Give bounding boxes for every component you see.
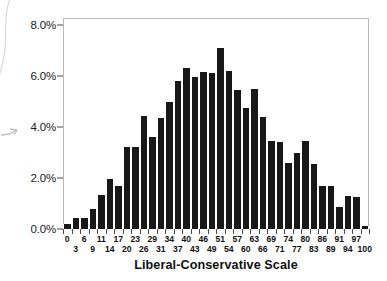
bar xyxy=(344,196,353,229)
x-axis-tick-mark xyxy=(123,229,124,234)
x-axis-tick-label: 60 xyxy=(241,244,251,254)
bar xyxy=(191,77,200,229)
x-axis-title: Liberal-Conservative Scale xyxy=(63,258,369,272)
x-axis-tick-label: 51 xyxy=(215,234,225,244)
x-axis-tick-label: 86 xyxy=(317,234,327,244)
bar xyxy=(80,218,89,229)
x-axis-tick-label: 74 xyxy=(283,234,293,244)
x-axis-tick-label: 0 xyxy=(65,234,70,244)
y-axis-tick-label: 4.0% xyxy=(31,121,56,133)
x-axis-tick-mark xyxy=(208,229,209,234)
x-axis-tick-label: 43 xyxy=(190,244,200,254)
x-axis-tick-label: 29 xyxy=(147,234,157,244)
bar xyxy=(352,197,361,229)
x-axis-tick-mark xyxy=(225,229,226,234)
bar xyxy=(284,163,293,229)
bar xyxy=(165,102,174,230)
x-axis-tick-label: 80 xyxy=(300,234,310,244)
bar xyxy=(97,195,106,229)
x-axis-tick-label: 89 xyxy=(326,244,336,254)
bar xyxy=(131,147,140,229)
x-axis-tick-label: 77 xyxy=(292,244,302,254)
bar xyxy=(157,118,166,229)
y-axis-tick-label: 2.0% xyxy=(31,172,56,184)
bar xyxy=(89,209,98,229)
x-axis-tick-label: 17 xyxy=(113,234,123,244)
x-axis-tick-label: 91 xyxy=(334,234,344,244)
x-axis-tick-label: 83 xyxy=(309,244,319,254)
bar xyxy=(250,89,259,229)
x-axis-tick-mark xyxy=(293,229,294,234)
bar xyxy=(259,117,268,229)
bar xyxy=(114,186,123,229)
x-axis-tick-label: 63 xyxy=(249,234,259,244)
bar xyxy=(233,90,242,229)
plot-area xyxy=(63,18,369,229)
x-axis-tick-mark xyxy=(106,229,107,234)
x-axis-tick-mark xyxy=(72,229,73,234)
x-axis-tick-label: 9 xyxy=(90,244,95,254)
x-axis-tick-mark xyxy=(140,229,141,234)
bar xyxy=(106,179,115,229)
bar xyxy=(327,186,336,229)
chart-figure: 0.0%2.0%4.0%6.0%8.0% 0369111417202326293… xyxy=(0,0,387,281)
x-axis-tick-label: 23 xyxy=(130,234,140,244)
x-axis-tick-label: 14 xyxy=(105,244,115,254)
bar xyxy=(123,147,132,229)
bar xyxy=(318,186,327,229)
y-axis: 0.0%2.0%4.0%6.0%8.0% xyxy=(0,0,66,281)
bar-series xyxy=(63,18,369,229)
bar xyxy=(72,218,81,229)
x-axis-tick-mark xyxy=(157,229,158,234)
bar xyxy=(182,68,191,229)
y-axis-tick-label: 0.0% xyxy=(31,223,56,235)
x-axis-tick-mark xyxy=(89,229,90,234)
bar xyxy=(335,207,344,229)
bar xyxy=(293,153,302,230)
x-axis-tick-label: 97 xyxy=(351,234,361,244)
x-axis-tick-label: 54 xyxy=(224,244,234,254)
x-axis-tick-mark xyxy=(63,229,64,234)
bar xyxy=(216,48,225,229)
x-axis-tick-label: 94 xyxy=(343,244,353,254)
bar xyxy=(174,81,183,229)
x-axis-tick-mark xyxy=(259,229,260,234)
x-axis-tick-mark xyxy=(344,229,345,234)
x-axis-tick-label: 69 xyxy=(266,234,276,244)
bar xyxy=(225,71,234,229)
bar xyxy=(301,141,310,229)
bar xyxy=(267,141,276,229)
bar xyxy=(276,142,285,229)
x-axis-tick-label: 6 xyxy=(82,234,87,244)
bar xyxy=(242,108,251,229)
x-axis-tick-label: 71 xyxy=(275,244,285,254)
x-axis-tick-mark xyxy=(310,229,311,234)
bar xyxy=(199,72,208,229)
x-axis-tick-label: 66 xyxy=(258,244,268,254)
x-axis-tick-label: 49 xyxy=(207,244,217,254)
x-axis-tick-mark xyxy=(174,229,175,234)
x-axis-tick-label: 100 xyxy=(358,244,372,254)
x-axis-tick-label: 31 xyxy=(156,244,166,254)
bar xyxy=(148,137,157,229)
x-axis-tick-mark xyxy=(242,229,243,234)
x-axis-tick-label: 57 xyxy=(232,234,242,244)
bar xyxy=(310,164,319,229)
x-axis-tick-label: 37 xyxy=(173,244,183,254)
x-axis-tick-label: 20 xyxy=(122,244,132,254)
x-axis-tick-mark xyxy=(369,229,370,234)
x-axis-tick-mark xyxy=(276,229,277,234)
x-axis-tick-mark xyxy=(80,229,81,234)
x-axis-tick-mark xyxy=(327,229,328,234)
x-axis-tick-label: 46 xyxy=(198,234,208,244)
x-axis-tick-label: 40 xyxy=(181,234,191,244)
x-axis-tick-label: 34 xyxy=(164,234,174,244)
x-axis-tick-label: 11 xyxy=(97,234,106,244)
bar xyxy=(140,116,149,229)
y-axis-tick-label: 6.0% xyxy=(31,70,56,82)
x-axis: 0369111417202326293134374043464951545760… xyxy=(63,229,369,261)
x-axis-tick-mark xyxy=(361,229,362,234)
x-axis-tick-label: 26 xyxy=(139,244,149,254)
y-axis-tick-label: 8.0% xyxy=(31,19,56,31)
x-axis-tick-label: 3 xyxy=(73,244,78,254)
